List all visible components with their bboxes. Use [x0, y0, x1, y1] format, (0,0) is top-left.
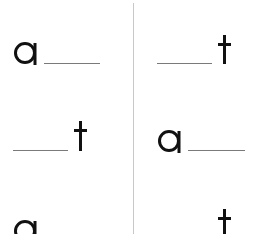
answer-blank[interactable] [157, 63, 212, 64]
answer-blank[interactable] [13, 150, 68, 151]
letter-a-glyph [13, 40, 39, 66]
letter-t-glyph [217, 35, 233, 65]
column-divider [133, 3, 134, 234]
letter-t-glyph [217, 209, 233, 234]
letter-a-glyph [157, 128, 183, 154]
answer-blank[interactable] [188, 150, 245, 151]
answer-blank[interactable] [44, 63, 100, 64]
letter-t-glyph [73, 121, 89, 151]
letter-a-glyph [13, 218, 39, 234]
